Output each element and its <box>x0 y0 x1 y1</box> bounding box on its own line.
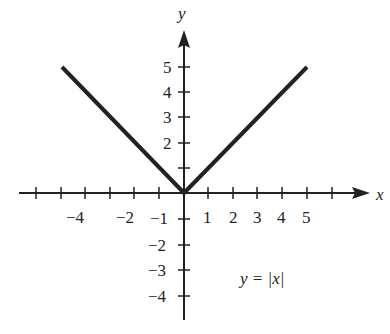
y-axis-label: y <box>176 4 186 23</box>
x-axis-label: x <box>375 185 384 204</box>
x-tick-label: −4 <box>66 208 85 227</box>
y-tick-label: −4 <box>148 287 167 306</box>
equation-annotation: y = |x| <box>238 269 284 288</box>
x-tick-label: 4 <box>277 208 286 227</box>
x-tick-label: 5 <box>302 208 311 227</box>
y-tick-label: −3 <box>148 261 166 280</box>
x-tick-label: −1 <box>150 209 168 228</box>
x-tick-label: 2 <box>229 208 238 227</box>
chart: −4 −2 −1 1 2 3 4 5 5 4 3 2 −2 −3 −4 x y … <box>0 0 390 334</box>
y-tick-label: 4 <box>163 83 172 102</box>
y-tick-label: 3 <box>163 108 172 127</box>
y-tick-label: 2 <box>163 134 172 153</box>
x-tick-label: −2 <box>116 208 134 227</box>
y-tick-label: −2 <box>148 236 166 255</box>
y-tick-label: 5 <box>163 58 172 77</box>
x-tick-label: 3 <box>253 208 262 227</box>
x-tick-label: 1 <box>203 208 212 227</box>
